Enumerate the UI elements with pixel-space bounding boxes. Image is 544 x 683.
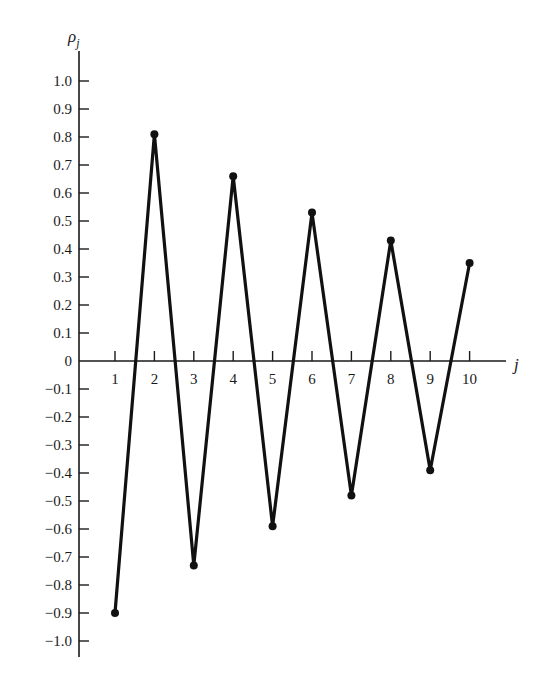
y-tick-label: 0.4: [53, 241, 72, 257]
x-tick-label: 4: [229, 371, 237, 387]
y-tick-label: −0.1: [45, 381, 72, 397]
y-tick-label: −0.7: [45, 549, 73, 565]
data-point-marker: [111, 609, 119, 617]
y-tick-label: 0.9: [53, 101, 72, 117]
y-tick-label: −0.3: [45, 437, 72, 453]
series-line: [115, 134, 470, 613]
x-tick-label: 3: [190, 371, 198, 387]
y-tick-label: 0: [65, 353, 73, 369]
y-tick-label: −0.9: [45, 605, 72, 621]
x-tick-label: 6: [308, 371, 316, 387]
x-tick-label: 1: [111, 371, 119, 387]
y-tick-label: 0.2: [53, 297, 72, 313]
x-tick-label: 8: [387, 371, 395, 387]
x-tick-label: 9: [426, 371, 434, 387]
data-point-marker: [229, 172, 237, 180]
data-point-marker: [426, 466, 434, 474]
y-tick-label: 1.0: [53, 73, 72, 89]
y-tick-label: 0.3: [53, 269, 72, 285]
y-tick-label: −0.6: [45, 521, 73, 537]
y-axis: 1.00.90.80.70.60.50.40.30.20.10−0.1−0.2−…: [45, 27, 89, 657]
y-tick-label: −0.5: [45, 493, 72, 509]
y-tick-label: 0.6: [53, 185, 72, 201]
x-axis-title: j: [512, 355, 519, 374]
x-tick-label: 5: [269, 371, 277, 387]
x-tick-label: 2: [151, 371, 159, 387]
data-point-marker: [308, 209, 316, 217]
data-point-marker: [150, 130, 158, 138]
data-point-marker: [269, 522, 277, 530]
data-point-marker: [466, 259, 474, 267]
y-tick-label: −0.8: [45, 577, 72, 593]
data-point-marker: [347, 491, 355, 499]
y-tick-label: 0.5: [53, 213, 72, 229]
data-point-marker: [387, 237, 395, 245]
x-tick-label: 10: [462, 371, 477, 387]
y-tick-label: −0.2: [45, 409, 72, 425]
y-tick-label: −1.0: [45, 633, 72, 649]
x-tick-label: 7: [348, 371, 356, 387]
autocorrelation-chart: 1.00.90.80.70.60.50.40.30.20.10−0.1−0.2−…: [0, 0, 544, 683]
y-tick-label: 0.8: [53, 129, 72, 145]
data-series: [111, 130, 474, 617]
y-tick-label: 0.1: [53, 325, 72, 341]
y-tick-label: 0.7: [53, 157, 72, 173]
data-point-marker: [190, 561, 198, 569]
y-axis-title: ρj: [67, 27, 80, 50]
y-tick-label: −0.4: [45, 465, 73, 481]
